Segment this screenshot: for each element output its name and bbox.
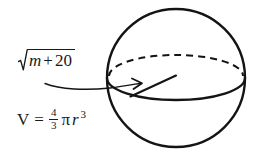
leader-line — [45, 83, 141, 89]
fraction-numerator: 4 — [49, 107, 59, 119]
radicand-variable: m — [29, 51, 41, 70]
radicand: m+20 — [27, 49, 75, 71]
figure-canvas: m+20 V = 4 3 π r 3 — [0, 0, 256, 154]
radical-row: m+20 — [18, 49, 75, 71]
equator-back-arc-dashed — [109, 55, 243, 76]
volume-formula-label: V = 4 3 π r 3 — [17, 107, 86, 131]
equator-front-arc — [107, 78, 245, 100]
radicand-operator: + — [41, 51, 55, 70]
radical-expression-label: m+20 — [18, 49, 75, 74]
sphere-outline-circle — [107, 9, 245, 147]
radius-variable: r — [70, 111, 79, 128]
exponent-three: 3 — [79, 109, 87, 120]
volume-fraction: 4 3 — [49, 107, 59, 131]
radicand-constant: 20 — [55, 51, 72, 70]
volume-lhs: V — [17, 111, 29, 128]
fraction-denominator: 3 — [49, 119, 59, 132]
pi-symbol: π — [59, 111, 70, 128]
volume-equals: = — [29, 111, 48, 128]
